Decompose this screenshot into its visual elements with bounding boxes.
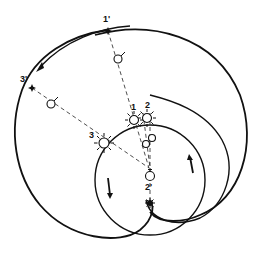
- planet-circle-icon: [146, 168, 155, 181]
- label-2-prime: 2': [145, 183, 152, 192]
- sun-icon: [94, 133, 114, 153]
- planet-circle-icon: [143, 135, 156, 148]
- sun-icon: [125, 111, 143, 129]
- label-1-prime: 1': [103, 15, 110, 24]
- label-sun-2: 2: [145, 101, 150, 110]
- planet-circle-icon: [114, 52, 125, 63]
- sun-icon: [138, 109, 156, 127]
- star-icon: [145, 198, 155, 208]
- orbit-diagram: [0, 0, 256, 259]
- outer-orbit-left: [15, 30, 153, 238]
- label-3-prime: 3': [20, 75, 27, 84]
- direction-arrow-icon: [187, 154, 193, 160]
- star-icon: [28, 84, 36, 92]
- planet-circle-icon: [47, 97, 58, 108]
- direction-arrow-icon: [107, 193, 113, 199]
- sight-line-1: [108, 31, 149, 168]
- arrow-down-left: [108, 178, 110, 195]
- label-sun-1: 1: [131, 103, 136, 112]
- label-sun-3: 3: [89, 131, 94, 140]
